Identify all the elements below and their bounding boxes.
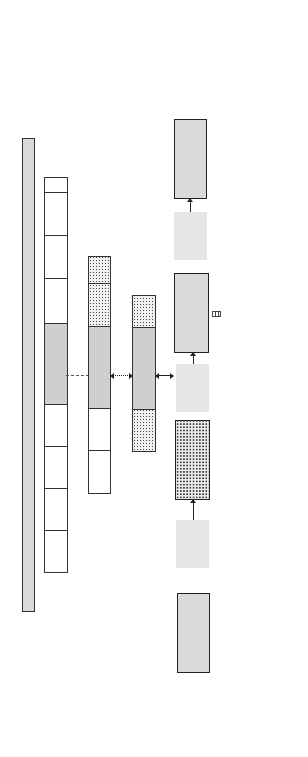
equivalence-icon: [212, 311, 221, 317]
personal-box: [174, 119, 207, 199]
home-delivery-box: [174, 212, 207, 260]
home-to-personal-arrow: [190, 199, 191, 212]
tier3-producer-services: [45, 323, 67, 404]
distributive-box: [174, 273, 209, 353]
cell-global-guidance: [45, 192, 67, 235]
top-services-row: [44, 177, 68, 573]
cell-repair-asset: [133, 409, 155, 451]
cell-project-mgmt: [89, 408, 110, 450]
tier2-producer-services: [89, 326, 110, 408]
arrowhead-up-icon: [155, 373, 159, 379]
tier1-row: [132, 295, 156, 452]
third-party-band: [22, 138, 35, 612]
tier3-tier2-dashed-connector: [66, 375, 89, 376]
arrowhead-up-icon: [110, 373, 114, 379]
cell-auditing-taxes: [45, 446, 67, 488]
extractive-box: [177, 593, 210, 673]
transformative-box: [175, 420, 210, 500]
cell-repair-maintain: [133, 296, 155, 327]
cell-hr-mgmt: [45, 235, 67, 278]
outbound-logistics-box: [176, 364, 209, 412]
cell-training-education: [45, 178, 67, 192]
cell-product-design: [89, 257, 110, 283]
arrowhead-down-icon: [170, 373, 174, 379]
cell-facilities-mgmt: [89, 450, 110, 493]
tier1-producer-services: [133, 327, 155, 409]
diagram-stage: [0, 0, 308, 757]
tier2-row: [88, 256, 111, 494]
outbound-to-distributive-arrow: [193, 353, 194, 364]
cell-govt-relations: [45, 530, 67, 572]
inbound-to-transformative-arrow: [193, 500, 194, 520]
cell-risk-insurance: [45, 488, 67, 530]
cell-strategic-consulting: [45, 278, 67, 323]
cell-process-consulting: [89, 283, 110, 326]
cell-legal-services: [45, 404, 67, 446]
inbound-logistics-box: [176, 520, 209, 568]
